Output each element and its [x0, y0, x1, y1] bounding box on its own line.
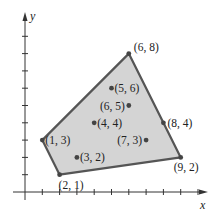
x-arrow-icon [199, 190, 208, 195]
x-axis-label: x [199, 198, 206, 212]
data-point [75, 155, 80, 160]
point-label: (1, 3) [45, 134, 70, 147]
data-point [144, 138, 149, 143]
point-label: (3, 2) [80, 151, 105, 164]
data-point [92, 120, 97, 125]
data-point [178, 155, 183, 160]
y-axis-label: y [29, 9, 36, 23]
hull-polygon [42, 54, 180, 175]
data-point [126, 103, 131, 108]
point-label: (5, 6) [115, 82, 140, 95]
point-label: (2, 1) [59, 179, 84, 192]
point-label: (6, 5) [100, 100, 125, 113]
point-label: (4, 4) [97, 117, 122, 130]
point-label: (6, 8) [134, 41, 159, 54]
point-label: (9, 2) [174, 161, 199, 174]
point-label: (8, 4) [167, 117, 192, 130]
hull-shape [42, 54, 180, 175]
data-point [161, 120, 166, 125]
point-label: (7, 3) [117, 134, 142, 147]
y-arrow-icon [23, 12, 28, 21]
data-point [57, 172, 62, 177]
data-point [40, 138, 45, 143]
data-point [109, 86, 114, 91]
data-point [126, 51, 131, 56]
convex-hull-plot: (6, 8)(5, 6)(6, 5)(4, 4)(8, 4)(1, 3)(7, … [0, 0, 215, 215]
